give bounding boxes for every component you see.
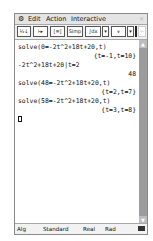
- menu-action[interactable]: Action: [46, 14, 66, 24]
- assign-arrow-button[interactable]: ⊦▸: [33, 26, 48, 37]
- entry-input[interactable]: solve(58=-2t^2+18t+20,t): [18, 97, 110, 105]
- vertical-scrollbar[interactable]: ▲ ▼: [139, 40, 147, 224]
- undo-button[interactable]: ←: [138, 26, 146, 37]
- entry-output: 48: [128, 70, 136, 78]
- status-mode[interactable]: Alg: [17, 224, 26, 234]
- close-icon[interactable]: ✕: [138, 15, 145, 22]
- graph-type-button[interactable]: ⩛: [111, 26, 126, 37]
- entry-output: {t=-1,t=10}: [94, 52, 136, 60]
- integral-dropdown-icon[interactable]: ▾: [102, 26, 109, 37]
- status-angle[interactable]: Rad: [105, 224, 116, 234]
- worksheet[interactable]: solve(0=-2t^2+18t+20,t) {t=-1,t=10} -2t^…: [15, 40, 139, 224]
- simplify-menu-button[interactable]: [≡]: [50, 26, 65, 37]
- scroll-up-icon[interactable]: ▲: [139, 40, 147, 48]
- graph-dropdown-icon[interactable]: ▾: [127, 26, 134, 37]
- fraction-decimal-button[interactable]: ½↓: [17, 26, 31, 37]
- menu-interactive[interactable]: Interactive: [71, 14, 106, 24]
- menu-bar: ⚙ Edit Action Interactive ✕: [15, 14, 147, 25]
- gear-icon[interactable]: ⚙: [18, 14, 24, 24]
- battery-icon: [138, 226, 145, 231]
- toolbar-separator: [135, 26, 137, 37]
- entry-input[interactable]: solve(48=-2t^2+18t+20,t): [18, 79, 110, 87]
- simp-button[interactable]: Simp: [67, 26, 83, 37]
- integral-button[interactable]: ∫dx: [85, 26, 101, 37]
- entry-input[interactable]: solve(0=-2t^2+18t+20,t): [18, 43, 107, 51]
- toolbar: ½↓ ⊦▸ [≡] Simp ∫dx ▾ ⩛ ▾ ←: [15, 25, 147, 40]
- status-number[interactable]: Real: [83, 224, 95, 234]
- entry-input[interactable]: -2t^2+18t+20|t=2: [18, 61, 80, 69]
- input-cursor[interactable]: [18, 116, 22, 122]
- status-bar: Alg Standard Real Rad: [15, 223, 147, 234]
- entry-output: {t=2,t=7}: [101, 88, 136, 96]
- entry-output: {t=3,t=8}: [101, 106, 136, 114]
- status-format[interactable]: Standard: [43, 224, 68, 234]
- menu-edit[interactable]: Edit: [28, 14, 41, 24]
- main-window: ⚙ Edit Action Interactive ✕ ½↓ ⊦▸ [≡] Si…: [14, 13, 148, 235]
